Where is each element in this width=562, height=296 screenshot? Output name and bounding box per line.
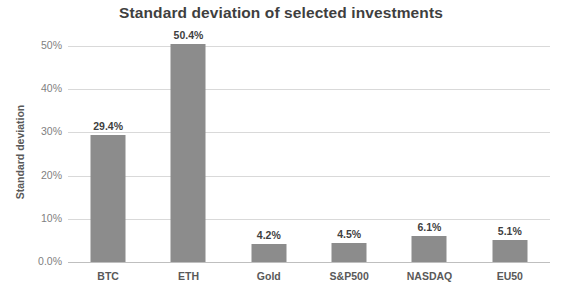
chart-title: Standard deviation of selected investmen…	[0, 4, 562, 22]
bar[interactable]	[332, 243, 367, 262]
bar-group: 4.2%	[229, 46, 309, 262]
y-tick-label: 10%	[18, 212, 62, 224]
bar[interactable]	[412, 236, 447, 262]
bar-value-label: 6.1%	[418, 221, 442, 233]
bar-value-label: 5.1%	[498, 225, 522, 237]
bar-group: 4.5%	[309, 46, 389, 262]
x-category-label: EU50	[470, 270, 550, 282]
x-category-label: Gold	[229, 270, 309, 282]
x-category-label: NASDAQ	[389, 270, 469, 282]
y-axis-title: Standard deviation	[14, 72, 26, 232]
gridline-0.0%	[68, 262, 550, 263]
bar-group: 5.1%	[470, 46, 550, 262]
bar-value-label: 4.5%	[337, 228, 361, 240]
bar[interactable]	[171, 44, 206, 262]
y-tick-label: 50%	[18, 39, 62, 51]
bar-chart: Standard deviation of selected investmen…	[0, 0, 562, 296]
x-category-label: BTC	[68, 270, 148, 282]
x-category-label: ETH	[148, 270, 228, 282]
y-tick-label: 30%	[18, 125, 62, 137]
y-tick-label: 40%	[18, 82, 62, 94]
bar-group: 50.4%	[148, 46, 228, 262]
y-tick-label: 0.0%	[18, 255, 62, 267]
bar-value-label: 50.4%	[174, 29, 204, 41]
bar-value-label: 4.2%	[257, 229, 281, 241]
bar-group: 6.1%	[389, 46, 469, 262]
bar-value-label: 29.4%	[93, 120, 123, 132]
bar[interactable]	[91, 135, 126, 262]
bar-group: 29.4%	[68, 46, 148, 262]
bar[interactable]	[251, 244, 286, 262]
plot-area: 29.4%50.4%4.2%4.5%6.1%5.1%	[68, 46, 550, 262]
y-tick-label: 20%	[18, 169, 62, 181]
bar[interactable]	[492, 240, 527, 262]
x-category-label: S&P500	[309, 270, 389, 282]
